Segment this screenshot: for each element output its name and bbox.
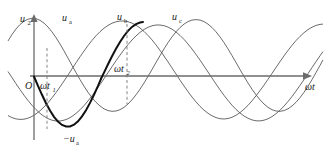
annotation-omega-t-1: ωt bbox=[40, 80, 50, 91]
x-axis-arrow bbox=[303, 72, 312, 80]
waveform-figure: u 2 O ωt u a u b u c ωt 1 ωt 2 −u a bbox=[0, 0, 324, 149]
curve-group-thin bbox=[8, 18, 323, 121]
curve-label-ua: u bbox=[62, 12, 67, 23]
curve-label-ua-subscript: a bbox=[69, 18, 72, 25]
annotation-omega-t-1-subscript: 1 bbox=[53, 86, 56, 93]
curve-ua bbox=[8, 18, 323, 111]
x-axis bbox=[30, 72, 312, 80]
curve-label-uc: u bbox=[172, 11, 177, 22]
annotation-omega-t-2-subscript: 2 bbox=[127, 69, 131, 76]
origin-label: O bbox=[25, 80, 32, 91]
curve-label-ub: u bbox=[117, 11, 122, 22]
curve-label-ub-subscript: b bbox=[124, 17, 127, 24]
y-axis-label-subscript: 2 bbox=[28, 19, 31, 26]
x-axis-label: ωt bbox=[305, 81, 315, 92]
curve-label-uc-subscript: c bbox=[179, 17, 182, 24]
annotation-omega-t-2: ωt bbox=[114, 63, 124, 74]
annotation-minus-ua: −u bbox=[63, 133, 75, 144]
waveform-svg: u 2 O ωt u a u b u c ωt 1 ωt 2 −u a bbox=[0, 0, 324, 149]
curve-uc bbox=[8, 25, 323, 121]
annotation-minus-ua-subscript: a bbox=[76, 139, 79, 146]
y-axis-label: u bbox=[20, 13, 25, 24]
